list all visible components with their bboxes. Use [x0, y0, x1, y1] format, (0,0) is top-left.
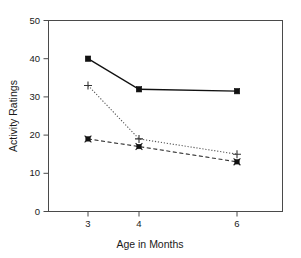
- data-point-marker: [234, 88, 239, 93]
- data-point-marker: [136, 87, 141, 92]
- x-tick-label-4: 4: [136, 218, 141, 229]
- chart-figure: 0 10 20 30 40 50 3 4 6 Age in Months Act…: [0, 0, 301, 258]
- data-point-marker: [235, 160, 239, 164]
- y-axis-title: Activity Ratings: [7, 80, 19, 152]
- y-tick-label-30: 30: [29, 91, 40, 102]
- y-tick-label-10: 10: [29, 167, 40, 178]
- series-dotted-plus: [84, 81, 241, 158]
- x-axis-title: Age in Months: [116, 238, 183, 250]
- x-tick-label-6: 6: [234, 218, 239, 229]
- data-point-marker: [137, 144, 141, 148]
- y-tick-label-40: 40: [29, 53, 40, 64]
- y-tick-label-20: 20: [29, 129, 40, 140]
- y-tick-label-50: 50: [29, 15, 40, 26]
- series-solid-square: [85, 56, 239, 94]
- data-point-marker: [85, 56, 90, 61]
- series-dashed-x: [85, 136, 241, 166]
- data-point-marker: [233, 150, 241, 158]
- line-chart: 0 10 20 30 40 50 3 4 6 Age in Months Act…: [0, 0, 301, 258]
- y-axis-ticks: [44, 21, 49, 212]
- plot-frame: [49, 21, 283, 212]
- x-axis-ticks: [88, 212, 237, 217]
- data-point-marker: [86, 137, 90, 141]
- x-tick-label-3: 3: [85, 218, 90, 229]
- y-tick-label-0: 0: [35, 206, 40, 217]
